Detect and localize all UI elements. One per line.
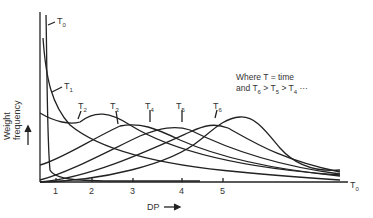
curve-t1 bbox=[43, 38, 340, 180]
curve-t5 bbox=[40, 125, 340, 182]
label-t0: T0 bbox=[57, 16, 66, 28]
label-t5: T5 bbox=[176, 101, 185, 113]
curve-t0 bbox=[46, 15, 200, 181]
label-t3: T3 bbox=[110, 101, 119, 113]
y-axis-label: Weightfrequency bbox=[2, 100, 22, 140]
label-t1: T1 bbox=[64, 81, 73, 93]
label-t2: T2 bbox=[78, 101, 87, 113]
annotation-line1: Where T = time bbox=[236, 72, 294, 82]
x-tick-2: 2 bbox=[89, 186, 94, 196]
label-x-end-t0: T0 bbox=[350, 180, 359, 192]
label-t4: T4 bbox=[145, 101, 154, 113]
x-tick-1: 1 bbox=[53, 186, 58, 196]
annotation-line2: and T6 > T5 > T4 ··· bbox=[236, 83, 308, 95]
x-axis-label: DP bbox=[147, 202, 160, 212]
x-tick-3: 3 bbox=[130, 186, 135, 196]
x-tick-5: 5 bbox=[220, 186, 225, 196]
curve-t6 bbox=[40, 117, 340, 182]
label-t6: T6 bbox=[213, 101, 222, 113]
x-tick-4: 4 bbox=[179, 186, 184, 196]
